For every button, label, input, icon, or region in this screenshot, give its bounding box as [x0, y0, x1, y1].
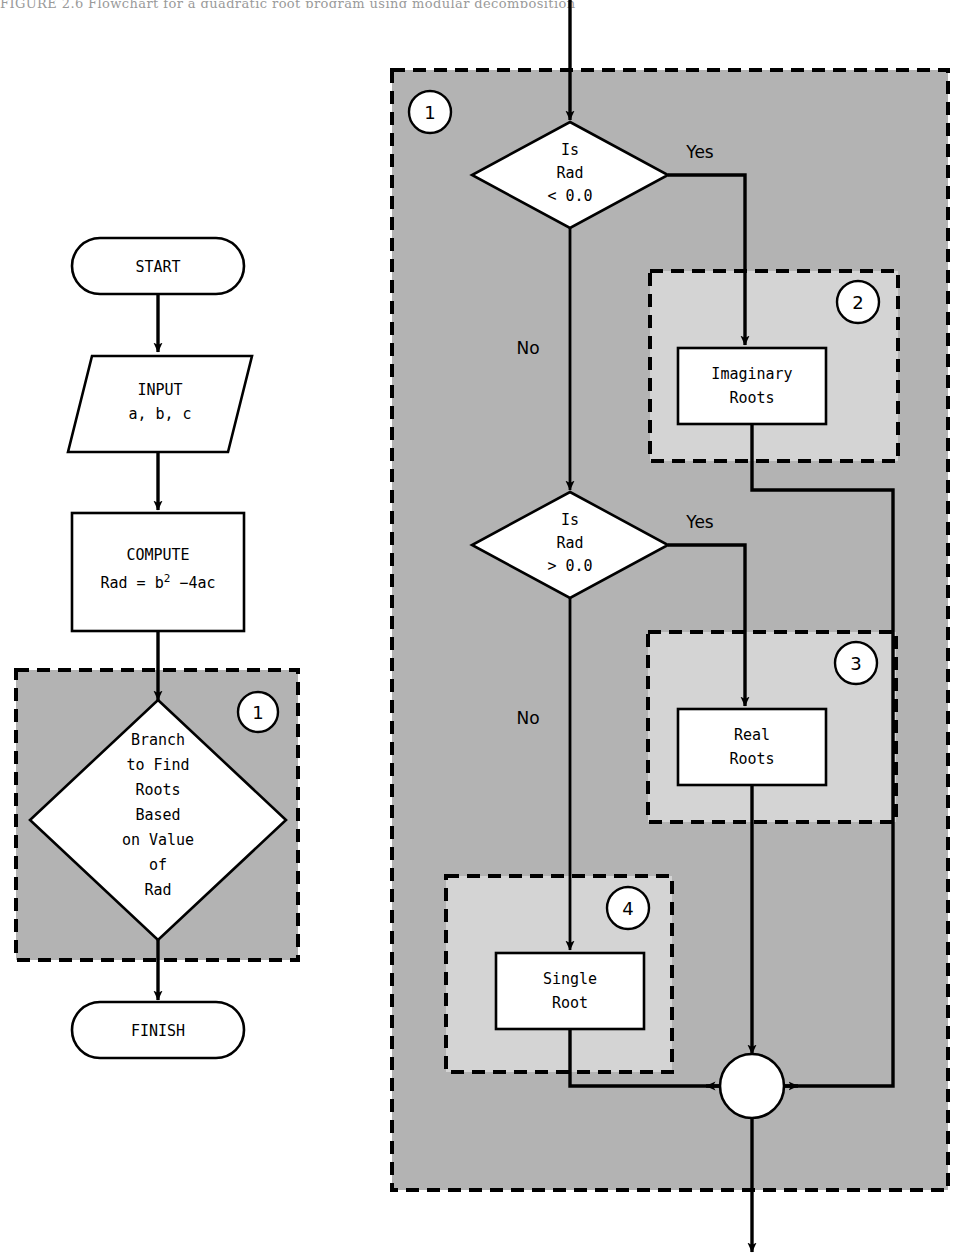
imaginary-roots-line2: Roots — [729, 389, 774, 407]
left-region-1-number: 1 — [252, 702, 263, 723]
region-3-badge: 3 — [835, 642, 877, 684]
compute-process-box: COMPUTE Rad = b2 −4ac — [72, 513, 244, 631]
left-region-1-badge: 1 — [238, 692, 278, 732]
branch-line-6: Rad — [144, 881, 171, 899]
right-region-1-number: 1 — [424, 102, 435, 123]
decision-2-line-1: Rad — [556, 534, 583, 552]
single-root-line2: Root — [552, 994, 588, 1012]
region-2-badge: 2 — [837, 281, 879, 323]
branch-line-3: Based — [135, 806, 180, 824]
region-3-number: 3 — [850, 653, 861, 674]
real-roots-line1: Real — [734, 726, 770, 744]
imaginary-roots-line1: Imaginary — [711, 365, 792, 383]
flowchart-svg: START INPUT a, b, c COMPUTE Rad = b2 −4a… — [0, 0, 973, 1260]
real-roots-line2: Roots — [729, 750, 774, 768]
decision-2-line-2: > 0.0 — [547, 557, 592, 575]
real-roots-box: Real Roots — [678, 709, 826, 785]
merge-junction-circle — [720, 1054, 784, 1118]
compute-label-line1: COMPUTE — [126, 546, 189, 564]
single-root-line1: Single — [543, 970, 597, 988]
branch-line-0: Branch — [131, 731, 185, 749]
start-terminator: START — [72, 238, 244, 294]
region-2-number: 2 — [852, 292, 863, 313]
decision-1-line-1: Rad — [556, 164, 583, 182]
decision-1-line-0: Is — [561, 141, 579, 159]
finish-label: FINISH — [131, 1022, 185, 1040]
branch-line-5: of — [149, 856, 167, 874]
decision-1-no-label: No — [516, 338, 539, 358]
input-label-line2: a, b, c — [128, 405, 191, 423]
right-region-1-badge: 1 — [409, 91, 451, 133]
compute-formula-pre: Rad = b — [101, 574, 164, 592]
region-4-badge: 4 — [607, 887, 649, 929]
branch-line-4: on Value — [122, 831, 194, 849]
figure-canvas: FIGURE 2.6 Flowchart for a quadratic roo… — [0, 0, 973, 1260]
input-parallelogram: INPUT a, b, c — [68, 356, 252, 452]
finish-terminator: FINISH — [72, 1002, 244, 1058]
decision-2-yes-label: Yes — [685, 512, 714, 532]
decision-2-line-0: Is — [561, 511, 579, 529]
decision-2-no-label: No — [516, 708, 539, 728]
compute-label-line2: Rad = b2 −4ac — [101, 572, 216, 592]
start-label: START — [135, 258, 180, 276]
branch-line-2: Roots — [135, 781, 180, 799]
branch-line-1: to Find — [126, 756, 189, 774]
imaginary-roots-box: Imaginary Roots — [678, 348, 826, 424]
region-4-number: 4 — [622, 898, 633, 919]
single-root-box: Single Root — [496, 953, 644, 1029]
decision-1-yes-label: Yes — [685, 142, 714, 162]
compute-formula-sup: 2 — [164, 572, 171, 585]
input-label-line1: INPUT — [137, 381, 182, 399]
compute-formula-post: −4ac — [170, 574, 215, 592]
decision-1-line-2: < 0.0 — [547, 187, 592, 205]
